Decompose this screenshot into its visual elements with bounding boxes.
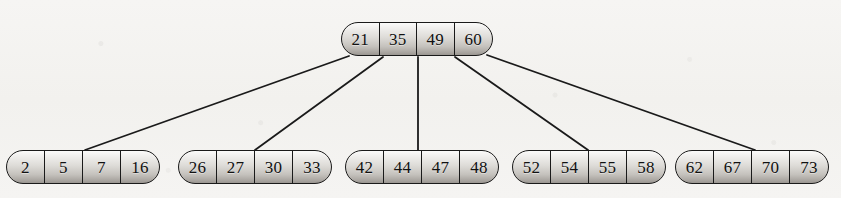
btree-key-cell: 70: [752, 151, 790, 183]
btree-key-cell: 5: [45, 151, 83, 183]
edge-root-leaf-1: [85, 56, 349, 150]
btree-key-cell: 49: [417, 23, 455, 55]
btree-node-leaf-3: 42 44 47 48: [345, 150, 499, 184]
edge-root-leaf-4: [455, 57, 588, 150]
btree-key-cell: 42: [346, 151, 384, 183]
btree-key-cell: 27: [217, 151, 255, 183]
btree-key-cell: 30: [255, 151, 293, 183]
btree-key-cell: 2: [7, 151, 45, 183]
btree-key-cell: 58: [627, 151, 665, 183]
btree-node-leaf-4: 52 54 55 58: [512, 150, 666, 184]
btree-node-leaf-1: 2 5 7 16: [6, 150, 160, 184]
btree-diagram: 21 35 49 60 2 5 7 16 26 27 30 33 42 44 4…: [0, 0, 841, 198]
btree-key-cell: 7: [83, 151, 121, 183]
btree-key-cell: 60: [455, 23, 493, 55]
btree-key-cell: 47: [422, 151, 460, 183]
edge-root-leaf-5: [487, 55, 755, 150]
btree-key-cell: 55: [589, 151, 627, 183]
btree-node-leaf-2: 26 27 30 33: [178, 150, 332, 184]
btree-key-cell: 73: [790, 151, 828, 183]
btree-key-cell: 16: [121, 151, 159, 183]
btree-key-cell: 44: [384, 151, 422, 183]
btree-key-cell: 33: [293, 151, 331, 183]
btree-key-cell: 52: [513, 151, 551, 183]
btree-key-cell: 48: [460, 151, 498, 183]
btree-key-cell: 67: [714, 151, 752, 183]
btree-node-root: 21 35 49 60: [341, 22, 493, 56]
btree-key-cell: 35: [380, 23, 418, 55]
btree-node-leaf-5: 62 67 70 73: [675, 150, 829, 184]
btree-key-cell: 21: [342, 23, 380, 55]
btree-key-cell: 62: [676, 151, 714, 183]
btree-key-cell: 54: [551, 151, 589, 183]
edge-root-leaf-2: [255, 57, 383, 150]
btree-key-cell: 26: [179, 151, 217, 183]
